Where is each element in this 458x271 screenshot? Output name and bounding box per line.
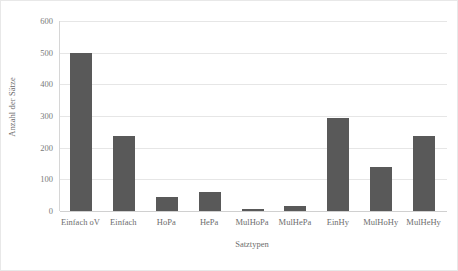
bar-slot: [188, 21, 231, 211]
y-axis-title-text: Anzahl der Sätze: [7, 77, 17, 137]
bar: [113, 136, 135, 211]
bar: [413, 136, 435, 211]
bar-slot: [274, 21, 317, 211]
bar: [70, 53, 92, 211]
x-axis-tick-label: MulHePa: [273, 215, 316, 233]
y-axis-tick-labels: 0100200300400500600: [21, 1, 57, 271]
x-axis-tick-label: MulHoPa: [231, 215, 274, 233]
gridline: [60, 211, 447, 212]
x-axis-tick-label: HePa: [188, 215, 231, 233]
y-axis-tick-label: 100: [40, 174, 53, 184]
x-axis-tick-labels: Einfach oVEinfachHoPaHePaMulHoPaMulHePaE…: [59, 215, 445, 233]
bar-slot: [103, 21, 146, 211]
y-axis-tick-label: 200: [40, 143, 53, 153]
x-axis-tick-label: Einfach oV: [59, 215, 102, 233]
bar: [156, 197, 178, 211]
bar-series: [60, 21, 445, 211]
bar: [242, 209, 264, 211]
bar-slot: [317, 21, 360, 211]
y-axis-tick-label: 500: [40, 48, 53, 58]
bar-slot: [402, 21, 445, 211]
x-axis-tick-label: MulHoHy: [359, 215, 402, 233]
y-axis-tick-label: 300: [40, 111, 53, 121]
y-axis-tick-label: 400: [40, 79, 53, 89]
x-axis-tick-label: HoPa: [145, 215, 188, 233]
plot-area: [59, 21, 445, 211]
bar-slot: [60, 21, 103, 211]
y-axis-tick-label: 600: [40, 16, 53, 26]
bar: [284, 206, 306, 211]
x-axis-title: Satztypen: [59, 239, 445, 249]
bar-slot: [359, 21, 402, 211]
bar: [370, 167, 392, 211]
bar: [327, 118, 349, 211]
x-axis-tick-label: MulHeHy: [402, 215, 445, 233]
bar: [199, 192, 221, 211]
bar-chart-figure: Anzahl der Sätze 0100200300400500600 Ein…: [0, 0, 458, 271]
x-axis-tick-label: EinHy: [316, 215, 359, 233]
y-axis-tick-label: 0: [49, 206, 53, 216]
bar-slot: [231, 21, 274, 211]
bar-slot: [146, 21, 189, 211]
x-axis-tick-label: Einfach: [102, 215, 145, 233]
y-axis-title: Anzahl der Sätze: [3, 1, 21, 213]
